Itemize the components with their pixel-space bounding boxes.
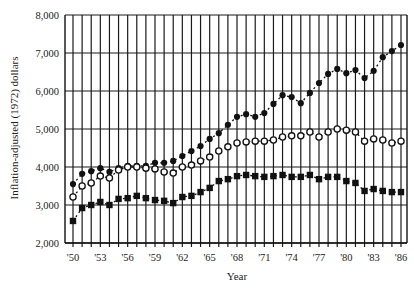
data-point-open-circle [389,140,395,146]
data-point-open-circle [188,162,194,168]
chart-canvas: 2,0003,0004,0005,0006,0007,0008,000'50'5… [0,0,414,292]
data-point-filled-circle [325,71,331,77]
data-point-open-circle [70,194,76,200]
data-point-square [270,173,276,179]
data-point-square [124,195,130,201]
data-point-open-circle [225,144,231,150]
x-tick-label: '80 [340,252,352,263]
data-point-open-circle [197,158,203,164]
data-point-square [188,193,194,199]
data-point-filled-circle [97,165,103,171]
y-tick-label: 4,000 [35,162,59,173]
data-point-filled-circle [216,130,222,136]
data-point-open-circle [371,136,377,142]
data-point-square [152,197,158,203]
data-point-open-circle [161,169,167,175]
data-point-open-circle [398,138,404,144]
data-point-open-circle [115,167,121,173]
data-point-square [307,172,313,178]
data-point-square [88,202,94,208]
data-point-square [361,188,367,194]
data-point-filled-circle [398,42,404,48]
data-point-open-circle [143,165,149,171]
data-point-square [143,195,149,201]
data-point-open-circle [352,129,358,135]
x-tick-label: '56 [121,252,133,263]
data-point-square [398,189,404,195]
x-tick-label: '71 [258,252,270,263]
data-point-filled-circle [161,160,167,166]
data-point-square [79,205,85,211]
data-point-open-circle [216,148,222,154]
y-tick-label: 3,000 [35,200,59,211]
data-point-open-circle [307,129,313,135]
y-tick-label: 7,000 [35,48,59,59]
data-point-open-circle [279,134,285,140]
data-point-square [261,174,267,180]
data-point-square [380,188,386,194]
x-tick-label: '65 [203,252,215,263]
data-point-open-circle [170,170,176,176]
data-point-filled-circle [298,100,304,106]
data-point-open-circle [152,166,158,172]
data-point-filled-circle [289,94,295,100]
x-tick-label: '83 [367,252,379,263]
x-tick-label: '68 [231,252,243,263]
data-point-open-circle [125,164,131,170]
x-tick-label: '50 [67,252,79,263]
data-point-open-circle [97,173,103,179]
data-point-open-circle [270,137,276,143]
data-point-filled-circle [179,153,185,159]
data-point-square [206,185,212,191]
data-point-open-circle [179,164,185,170]
data-point-filled-circle [170,158,176,164]
data-point-filled-circle [207,136,213,142]
data-point-filled-circle [261,110,267,116]
data-point-open-circle [325,129,331,135]
data-point-open-circle [343,127,349,133]
y-tick-label: 6,000 [35,86,59,97]
data-point-open-circle [252,138,258,144]
data-point-filled-circle [307,90,313,96]
data-point-square [70,218,76,224]
data-point-filled-circle [352,67,358,73]
data-point-square [170,200,176,206]
data-point-filled-circle [334,66,340,72]
x-tick-label: '77 [313,252,325,263]
data-point-open-circle [316,134,322,140]
data-point-square [370,186,376,192]
y-tick-label: 8,000 [35,10,59,21]
data-point-square [179,194,185,200]
data-point-square [334,174,340,180]
x-tick-label: '53 [94,252,106,263]
data-point-square [389,189,395,195]
data-point-square [161,198,167,204]
data-point-square [234,173,240,179]
data-point-open-circle [106,175,112,181]
data-point-square [325,174,331,180]
data-point-open-circle [334,126,340,132]
x-tick-label: '62 [176,252,188,263]
data-point-filled-circle [252,114,258,120]
data-point-filled-circle [188,148,194,154]
data-point-filled-circle [197,143,203,149]
x-axis-title: Year [227,270,248,282]
data-point-filled-circle [279,92,285,98]
data-point-filled-circle [361,75,367,81]
data-point-square [352,180,358,186]
y-tick-label: 5,000 [35,124,59,135]
data-point-filled-circle [79,171,85,177]
data-point-square [134,193,140,199]
data-point-open-circle [289,133,295,139]
data-point-square [298,174,304,180]
data-point-filled-circle [152,160,158,166]
x-tick-label: '74 [285,252,298,263]
y-tick-label: 2,000 [35,238,59,249]
chart: 2,0003,0004,0005,0006,0007,0008,000'50'5… [0,0,414,292]
data-point-square [225,176,231,182]
data-point-filled-circle [371,68,377,74]
data-point-filled-circle [389,48,395,54]
data-point-filled-circle [234,114,240,120]
y-axis-title: Inflation-adjusted (1972) dollars [8,57,21,200]
data-point-square [197,189,203,195]
